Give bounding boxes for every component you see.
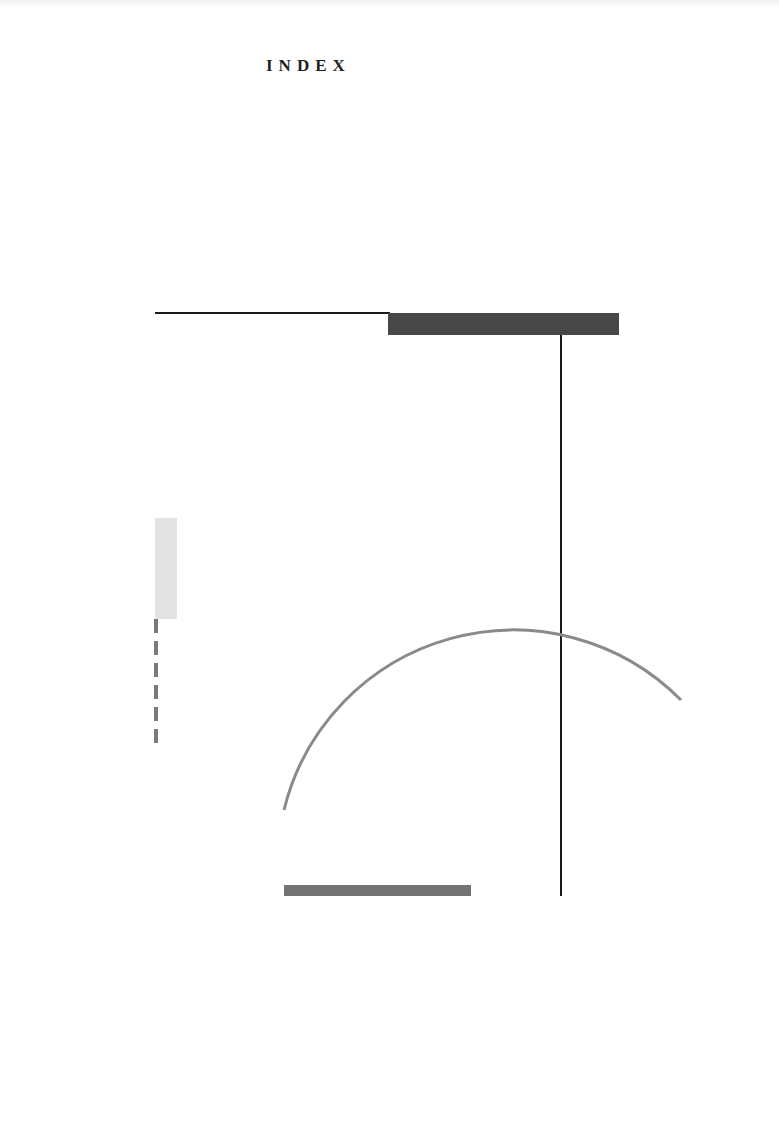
arc xyxy=(284,630,681,810)
top-horizontal-line xyxy=(155,312,390,314)
bottom-bar xyxy=(284,885,471,896)
vertical-line xyxy=(560,335,562,896)
light-gray-rect xyxy=(155,518,177,619)
dark-bar xyxy=(388,313,619,335)
arc-layer xyxy=(0,0,779,1145)
top-edge-shade xyxy=(0,0,779,8)
page-title: INDEX xyxy=(266,56,351,76)
dashed-line xyxy=(154,619,158,746)
